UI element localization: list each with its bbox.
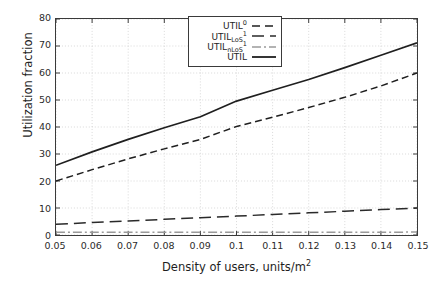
x-axis-label: Density of users, units/m2 — [55, 259, 418, 274]
x-tick-label: 0.12 — [299, 241, 320, 251]
x-tick-label: 0.1 — [229, 241, 244, 251]
y-tick-label: 70 — [39, 41, 51, 51]
x-tick-label: 0.05 — [44, 241, 65, 251]
y-tick-label: 60 — [39, 68, 51, 78]
legend-swatch-UTIL_nLoS1 — [251, 43, 277, 51]
legend-item-UTIL_LoS1: UTILLoS1 — [192, 31, 277, 41]
y-tick-label: 50 — [39, 95, 51, 105]
y-tick-label: 10 — [39, 204, 51, 214]
x-axis-tick-labels: 0.050.060.070.080.090.10.110.120.130.140… — [55, 241, 418, 255]
legend-swatch-UTIL0 — [251, 22, 277, 30]
y-tick-label: 20 — [39, 177, 51, 187]
legend-swatch-UTIL_LoS1 — [251, 32, 277, 40]
legend: UTIL0UTILLoS1UTILnLoS1UTIL — [188, 16, 282, 67]
x-tick-label: 0.14 — [371, 241, 392, 251]
x-tick-label: 0.09 — [190, 241, 211, 251]
chart-figure: 01020304050607080 0.050.060.070.080.090.… — [0, 0, 438, 283]
x-tick-label: 0.08 — [153, 241, 174, 251]
y-axis-label: Utilization fraction — [21, 5, 35, 165]
x-tick-label: 0.13 — [335, 241, 356, 251]
x-tick-label: 0.06 — [81, 241, 102, 251]
series-line-UTIL_LoS1 — [56, 208, 417, 224]
y-tick-label: 40 — [39, 122, 51, 132]
legend-item-UTIL0: UTIL0 — [192, 21, 277, 31]
x-tick-label: 0.11 — [262, 241, 283, 251]
series-line-UTIL0 — [56, 73, 417, 181]
x-tick-label: 0.15 — [407, 241, 428, 251]
y-tick-label: 80 — [39, 13, 51, 23]
legend-swatch-UTIL — [251, 53, 277, 61]
y-tick-label: 30 — [39, 150, 51, 160]
legend-label: UTILLoS1 — [211, 31, 247, 42]
x-tick-label: 0.07 — [117, 241, 138, 251]
